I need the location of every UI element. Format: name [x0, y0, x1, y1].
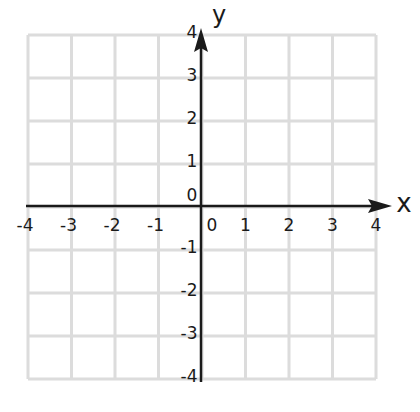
- coordinate-plane: [0, 0, 420, 412]
- x-tick-label: -4: [17, 217, 34, 234]
- y-tick-label: -1: [181, 239, 198, 256]
- x-tick-label: -1: [147, 217, 164, 234]
- y-tick-label: 1: [187, 153, 198, 170]
- x-tick-label: -2: [104, 217, 121, 234]
- y-tick-label: -2: [181, 282, 198, 299]
- y-tick-label: -3: [181, 325, 198, 342]
- x-tick-label: 2: [284, 217, 295, 234]
- y-tick-label: 4: [187, 24, 198, 41]
- y-tick-label: 3: [187, 67, 198, 84]
- x-axis-label: x: [396, 190, 411, 216]
- y-tick-label: 2: [187, 110, 198, 127]
- y-tick-label: 0: [187, 187, 198, 204]
- x-tick-label: 1: [240, 217, 251, 234]
- y-tick-label: -4: [181, 368, 198, 385]
- x-tick-label: -3: [60, 217, 77, 234]
- y-axis-label: y: [212, 3, 226, 27]
- x-tick-label: 4: [371, 217, 382, 234]
- x-tick-label: 0: [207, 217, 218, 234]
- axes: [26, 28, 392, 382]
- x-tick-label: 3: [327, 217, 338, 234]
